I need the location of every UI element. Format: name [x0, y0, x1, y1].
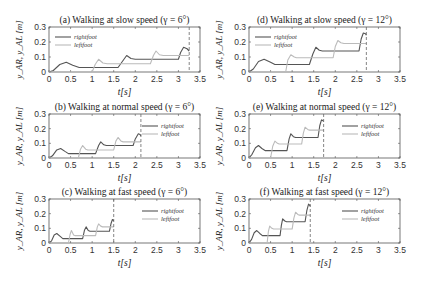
legend-label-leftfoot: leftfoot [161, 130, 180, 137]
x-axis-label: t[s] [318, 87, 332, 97]
x-tick-label: 2 [333, 74, 338, 84]
y-tick-label: 0.3 [234, 194, 246, 204]
x-tick-label: 3.5 [194, 245, 206, 255]
legend-label-rightfoot: rightfoot [361, 207, 384, 214]
legend-label-leftfoot: leftfoot [161, 215, 180, 222]
x-tick-label: 3.5 [394, 245, 406, 255]
x-tick-label: 1 [90, 74, 95, 84]
x-tick-label: 0 [47, 74, 52, 84]
x-tick-label: 3.5 [194, 160, 206, 170]
x-tick-label: 3 [376, 245, 381, 255]
x-tick-label: 1 [90, 160, 95, 170]
x-tick-label: 3 [176, 245, 181, 255]
axes-box [249, 27, 400, 72]
x-tick-label: 1.5 [108, 245, 120, 255]
x-tick-label: 1.5 [308, 74, 320, 84]
y-axis-label: y_AR, y_AL [m] [214, 191, 224, 251]
legend-label-rightfoot: rightfoot [161, 207, 184, 214]
x-tick-label: 3.5 [394, 160, 406, 170]
x-tick-label: 2 [333, 160, 338, 170]
y-tick-label: 0.2 [234, 124, 246, 134]
legend-label-rightfoot: rightfoot [274, 33, 297, 40]
x-axis-label: t[s] [118, 87, 132, 97]
x-tick-label: 2.5 [351, 74, 363, 84]
x-tick-label: 2 [133, 74, 138, 84]
legend-label-rightfoot: rightfoot [161, 122, 184, 129]
x-tick-label: 0.5 [65, 74, 77, 84]
x-tick-label: 3 [176, 160, 181, 170]
panel-c: (c) Walking at fast speed (γ = 6°)00.511… [14, 187, 206, 268]
y-tick-label: 0 [41, 153, 46, 163]
y-tick-label: 0.1 [34, 138, 46, 148]
legend-label-leftfoot: leftfoot [74, 41, 93, 48]
x-tick-label: 3 [176, 74, 181, 84]
x-axis-label: t[s] [118, 173, 132, 183]
y-tick-label: 0.2 [234, 209, 246, 219]
y-tick-label: 0 [241, 67, 246, 77]
x-tick-label: 0.5 [265, 160, 277, 170]
y-tick-label: 0 [241, 238, 246, 248]
panel-f: (f) Walking at fast speed (γ = 12°)00.51… [214, 187, 406, 268]
y-tick-label: 0.2 [234, 37, 246, 47]
y-tick-label: 0.3 [234, 109, 246, 119]
y-tick-label: 0.3 [34, 109, 46, 119]
y-axis-label: y_AR, y_AL [m] [14, 191, 24, 251]
x-tick-label: 2 [133, 160, 138, 170]
y-tick-label: 0.2 [34, 37, 46, 47]
x-tick-label: 1 [290, 245, 295, 255]
y-axis-label: y_AR, y_AL [m] [214, 106, 224, 166]
x-tick-label: 0.5 [65, 160, 77, 170]
x-tick-label: 3 [376, 160, 381, 170]
legend-label-rightfoot: rightfoot [74, 33, 97, 40]
y-tick-label: 0 [41, 67, 46, 77]
x-tick-label: 1.5 [108, 160, 120, 170]
x-tick-label: 1 [90, 245, 95, 255]
legend-label-leftfoot: leftfoot [361, 130, 380, 137]
y-tick-label: 0.2 [34, 124, 46, 134]
x-tick-label: 1 [290, 160, 295, 170]
x-tick-label: 2 [333, 245, 338, 255]
x-tick-label: 3.5 [194, 74, 206, 84]
x-tick-label: 1.5 [308, 245, 320, 255]
x-tick-label: 0 [47, 160, 52, 170]
x-tick-label: 0.5 [265, 245, 277, 255]
y-tick-label: 0.1 [234, 52, 246, 62]
x-tick-label: 0.5 [65, 245, 77, 255]
y-tick-label: 0.3 [34, 194, 46, 204]
panel-b: (b) Walking at normal speed (γ = 6°)00.5… [14, 102, 206, 183]
x-tick-label: 3.5 [394, 74, 406, 84]
legend-label-rightfoot: rightfoot [361, 122, 384, 129]
x-tick-label: 1 [290, 74, 295, 84]
y-tick-label: 0 [241, 153, 246, 163]
figure: (a) Walking at slow speed (γ = 6°)00.511… [0, 0, 421, 283]
panel-title: (d) Walking at slow speed (γ = 12°) [257, 15, 392, 26]
y-tick-label: 0.1 [34, 52, 46, 62]
panel-title: (f) Walking at fast speed (γ = 12°) [260, 187, 389, 198]
x-tick-label: 2.5 [151, 74, 163, 84]
panel-d: (d) Walking at slow speed (γ = 12°)00.51… [214, 15, 406, 97]
x-tick-label: 0.5 [265, 74, 277, 84]
x-axis-label: t[s] [118, 258, 132, 268]
y-tick-label: 0.3 [34, 22, 46, 32]
y-tick-label: 0 [41, 238, 46, 248]
x-tick-label: 3 [376, 74, 381, 84]
x-tick-label: 0 [247, 245, 252, 255]
y-axis-label: y_AR, y_AL [m] [14, 106, 24, 166]
y-tick-label: 0.1 [34, 223, 46, 233]
y-tick-label: 0.3 [234, 22, 246, 32]
panel-title: (b) Walking at normal speed (γ = 6°) [55, 102, 194, 113]
x-tick-label: 2.5 [151, 245, 163, 255]
y-tick-label: 0.2 [34, 209, 46, 219]
legend-label-leftfoot: leftfoot [361, 215, 380, 222]
x-axis-label: t[s] [318, 173, 332, 183]
x-tick-label: 2 [133, 245, 138, 255]
x-tick-label: 1.5 [308, 160, 320, 170]
panel-title: (c) Walking at fast speed (γ = 6°) [62, 187, 188, 198]
y-tick-label: 0.1 [234, 138, 246, 148]
panel-e: (e) Walking at normal speed (γ = 12°)00.… [214, 102, 406, 183]
x-tick-label: 2.5 [151, 160, 163, 170]
x-tick-label: 0 [47, 245, 52, 255]
x-tick-label: 2.5 [351, 160, 363, 170]
x-tick-label: 1.5 [108, 74, 120, 84]
x-axis-label: t[s] [318, 258, 332, 268]
